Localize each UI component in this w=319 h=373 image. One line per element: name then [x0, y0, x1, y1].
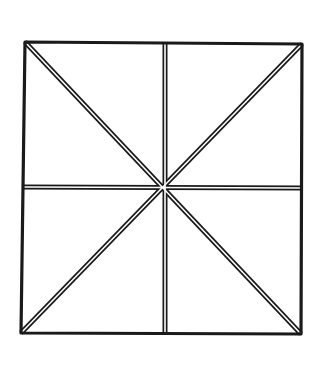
square-division-diagram [0, 0, 319, 373]
inner-lines [21, 42, 302, 334]
